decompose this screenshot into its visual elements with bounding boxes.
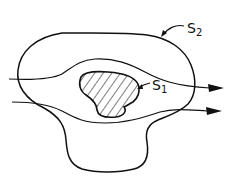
diagram-figure: S2 S1	[0, 0, 233, 191]
label-s1: S1	[152, 77, 167, 95]
arrowhead-upper-icon	[208, 84, 224, 92]
diagram-canvas: S2 S1	[0, 0, 233, 191]
label-s2: S2	[187, 20, 202, 38]
leader-line-s2	[163, 25, 184, 35]
inner-body-s1	[80, 72, 139, 118]
arrowhead-lower-icon	[206, 107, 222, 115]
